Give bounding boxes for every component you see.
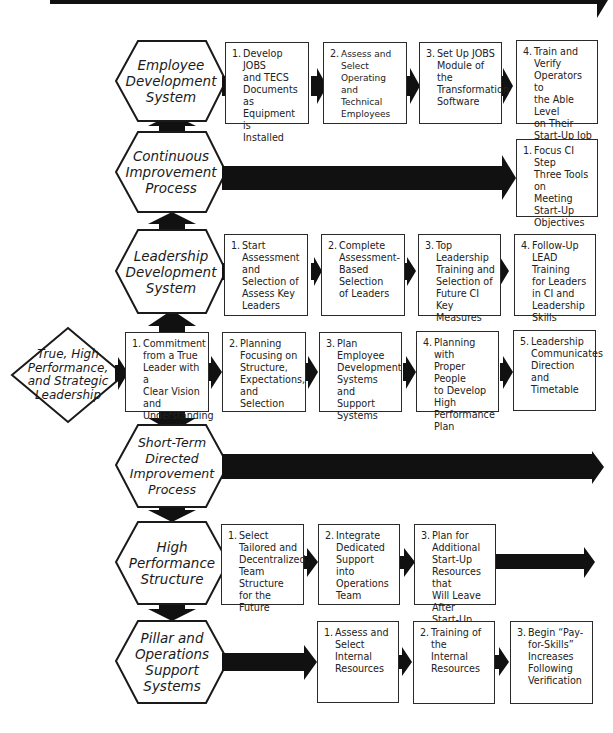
step-core-2: 2. Planning Focusing on Structure, Expec… [222, 332, 306, 412]
step-number: 5. [520, 336, 531, 348]
step-text: Integrate Dedicated Support into Operati… [336, 530, 395, 602]
step-text: Plan for Additional Start-Up Resources t… [432, 530, 491, 626]
step-number: 2. [330, 48, 341, 60]
step-text: Plan Employee Development Systems and Su… [337, 338, 397, 422]
arrow-core-3 [403, 356, 416, 389]
step-number: 1. [232, 48, 243, 60]
step-number: 4. [423, 337, 434, 349]
step-number: 2. [229, 338, 240, 350]
top-banner-arrow [50, 0, 608, 18]
step-number: 4. [521, 240, 532, 252]
step-number: 3. [426, 48, 437, 60]
step-poss-3: 3. Begin “Pay- for-Skills” Increases Fol… [510, 621, 593, 704]
step-text: Planning Focusing on Structure, Expectat… [240, 338, 301, 410]
step-lds-4: 4. Follow-Up LEAD Training for Leaders i… [514, 234, 596, 316]
step-eds-2: 2. Assess and Select Operating and Techn… [323, 42, 407, 124]
arrow-up-lds-to-cip [148, 212, 196, 230]
step-text: Commitment from a True Leader with a Cle… [143, 338, 204, 422]
step-number: 3. [517, 627, 528, 639]
step-text: Follow-Up LEAD Training for Leaders in C… [532, 240, 591, 324]
step-text: Top Leadership Training and Selection of… [436, 240, 496, 324]
step-number: 1. [523, 145, 534, 157]
step-text: Start Assessment and Selection of Assess… [242, 240, 303, 312]
step-number: 3. [425, 240, 436, 252]
step-number: 3. [326, 338, 337, 350]
arrow-core-1 [208, 356, 222, 389]
arrow-lds-2 [404, 257, 416, 286]
step-cip-1: 1. Focus CI Step Three Tools on Meeting … [516, 139, 598, 217]
step-number: 4. [523, 46, 534, 58]
step-number: 2. [328, 240, 339, 252]
step-text: Complete Assessment- Based Selection of … [339, 240, 400, 300]
arrow-poss-2 [495, 647, 509, 676]
arrow-core-4 [500, 356, 513, 389]
step-lds-3: 3. Top Leadership Training and Selection… [418, 234, 501, 316]
step-core-3: 3. Plan Employee Development Systems and… [319, 332, 402, 412]
arrow-stdip-long [222, 451, 604, 484]
step-poss-1: 1. Assess and Select Internal Resources [317, 621, 399, 703]
arrow-poss-1 [398, 647, 412, 676]
step-number: 1. [132, 338, 143, 350]
step-core-1: 1. Commitment from a True Leader with a … [125, 332, 209, 412]
step-number: 1. [228, 530, 239, 542]
step-core-4: 4. Planning with Proper People to Develo… [416, 331, 499, 412]
step-lds-2: 2. Complete Assessment- Based Selection … [321, 234, 405, 316]
arrow-hps-long [496, 547, 595, 578]
step-poss-2: 2. Training of the Internal Resources [413, 621, 495, 704]
step-text: Focus CI Step Three Tools on Meeting Sta… [534, 145, 593, 229]
system-label-high-performance: High Performance Structure [118, 524, 226, 602]
step-text: Select Tailored and Decentralized Team S… [239, 530, 299, 614]
system-label-employee-development: Employee Development System [118, 43, 224, 119]
step-text: Begin “Pay- for-Skills” Increases Follow… [528, 627, 588, 687]
step-text: Train and Verify Operators to the Able L… [534, 46, 593, 142]
step-eds-1: 1. Develop JOBS and TECS Documents as Eq… [225, 42, 309, 124]
arrow-core-2 [305, 356, 318, 389]
step-number: 3. [421, 530, 432, 542]
arrow-cip-long [222, 155, 516, 200]
system-label-leadership-development: Leadership Development System [118, 232, 224, 311]
step-text: Leadership Communicates Direction and Ti… [531, 336, 591, 396]
step-text: Training of the Internal Resources [431, 627, 490, 675]
system-label-continuous-improvement: Continuous Improvement Process [118, 134, 224, 210]
step-hps-3: 3. Plan for Additional Start-Up Resource… [414, 524, 496, 605]
step-eds-4: 4. Train and Verify Operators to the Abl… [516, 40, 598, 124]
step-hps-1: 1. Select Tailored and Decentralized Tea… [221, 524, 304, 605]
step-number: 2. [420, 627, 431, 639]
origin-label: True, High Performance, and Strategic Le… [14, 340, 122, 410]
step-lds-1: 1. Start Assessment and Selection of Ass… [224, 234, 308, 316]
arrow-hps-2 [400, 548, 415, 577]
step-number: 2. [325, 530, 336, 542]
step-number: 1. [324, 627, 335, 639]
step-eds-3: 3. Set Up JOBS Module of the Transformat… [419, 42, 502, 124]
step-core-5: 5. Leadership Communicates Direction and… [513, 330, 596, 411]
system-label-short-term-directed: Short-Term Directed Improvement Process [118, 427, 226, 505]
step-text: Assess and Select Internal Resources [335, 627, 394, 675]
step-text: Develop JOBS and TECS Documents as Equip… [243, 48, 304, 144]
arrow-down-hps-to-poss [148, 604, 196, 621]
step-text: Assess and Select Operating and Technica… [341, 48, 402, 120]
step-hps-2: 2. Integrate Dedicated Support into Oper… [318, 524, 400, 605]
step-text: Set Up JOBS Module of the Transformation… [437, 48, 497, 108]
system-label-pillar-operations: Pillar and Operations Support Systems [118, 623, 226, 701]
arrow-poss-long [222, 645, 317, 680]
step-text: Planning with Proper People to Develop H… [434, 337, 494, 433]
step-number: 1. [231, 240, 242, 252]
